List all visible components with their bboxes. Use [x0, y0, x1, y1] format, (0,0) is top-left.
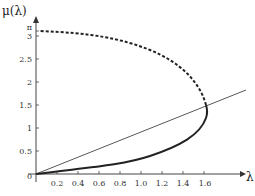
x-tick-label: 0.8 [114, 179, 127, 188]
y-tick-label: 0.5 [19, 147, 32, 156]
y-tick-label: 1.5 [19, 101, 32, 110]
straight-line-series [36, 90, 246, 174]
y-axis-title: μ(λ) [2, 4, 27, 18]
y-tick-label: 2 [27, 78, 32, 87]
x-tick-label: 0.2 [51, 179, 64, 188]
dashed-branch-series [40, 31, 206, 105]
y-tick-label: 1 [27, 124, 32, 133]
y-axis-arrow-icon [33, 16, 39, 23]
y-tick-label: 3 [27, 32, 32, 41]
pi-tick-label: π [27, 23, 32, 32]
chart: 0.2 0.4 0.6 0.8 1.0 1.2 1.4 1.6 0.5 1 1.… [0, 0, 255, 196]
x-tick-label: 0.4 [72, 179, 85, 188]
origin-label: 0 [27, 172, 32, 181]
x-tick-label: 0.6 [93, 179, 106, 188]
x-tick-label: 1.2 [156, 179, 169, 188]
x-tick-label: 1.0 [135, 179, 148, 188]
x-tick-label: 1.4 [177, 179, 190, 188]
y-axis [36, 22, 39, 182]
x-tick-label: 1.6 [199, 179, 212, 188]
x-axis-title: λ [246, 170, 254, 184]
y-tick-label: 2.5 [19, 55, 32, 64]
